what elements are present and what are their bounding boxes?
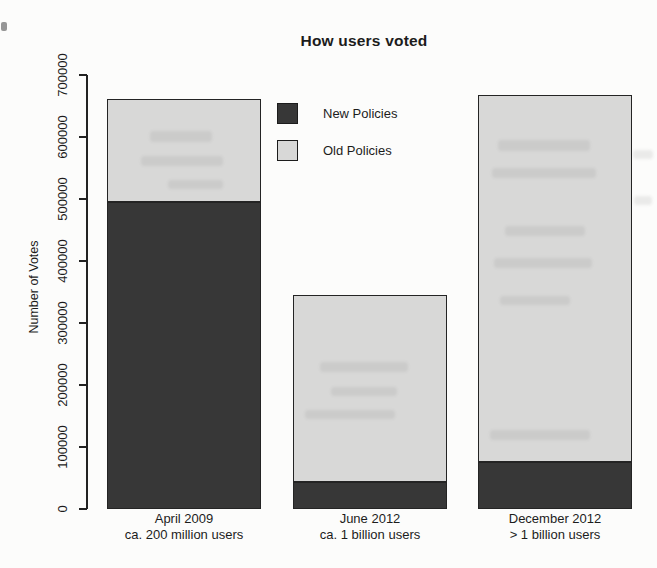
y-tick-label: 400000 <box>55 239 70 282</box>
bar-segment-old-policies-december-2012 <box>478 95 632 462</box>
y-tick-label: 300000 <box>55 301 70 344</box>
legend-item-old-policies: Old Policies <box>277 140 397 161</box>
x-axis-label-line2: ca. 200 million users <box>125 527 244 543</box>
bar-segment-old-policies-june-2012 <box>293 295 447 482</box>
legend-swatch-new-policies <box>277 103 298 124</box>
y-tick <box>79 136 87 138</box>
x-axis-label-line2: ca. 1 billion users <box>320 527 420 543</box>
y-tick-label: 100000 <box>55 425 70 468</box>
scan-bleed-artifact <box>633 150 653 159</box>
legend-label-old-policies: Old Policies <box>323 143 392 158</box>
x-axis-label-december-2012: December 2012> 1 billion users <box>509 511 602 542</box>
x-axis-label-line2: > 1 billion users <box>509 527 602 543</box>
y-tick <box>79 198 87 200</box>
y-tick <box>79 508 87 510</box>
y-tick <box>79 74 87 76</box>
y-axis-title: Number of Votes <box>27 240 41 333</box>
y-tick-label: 0 <box>55 505 70 512</box>
x-axis-label-june-2012: June 2012ca. 1 billion users <box>320 511 420 542</box>
stacked-bar-chart-figure: How users voted Number of Votes 01000002… <box>0 0 657 568</box>
y-tick-label: 700000 <box>55 53 70 96</box>
legend-label-new-policies: New Policies <box>323 106 397 121</box>
bar-segment-new-policies-april-2009 <box>107 202 261 509</box>
bar-segment-new-policies-december-2012 <box>478 462 632 509</box>
y-tick <box>79 446 87 448</box>
y-tick-label: 200000 <box>55 363 70 406</box>
y-tick-label: 500000 <box>55 177 70 220</box>
x-axis-label-april-2009: April 2009ca. 200 million users <box>125 511 244 542</box>
y-tick-label: 600000 <box>55 115 70 158</box>
legend: New Policies Old Policies <box>277 103 397 177</box>
legend-swatch-old-policies <box>277 140 298 161</box>
y-axis-line <box>86 75 88 509</box>
y-tick <box>79 260 87 262</box>
scan-bleed-artifact <box>634 196 652 205</box>
x-axis-label-line1: June 2012 <box>320 511 420 527</box>
legend-item-new-policies: New Policies <box>277 103 397 124</box>
chart-title: How users voted <box>88 32 640 50</box>
bar-segment-new-policies-june-2012 <box>293 482 447 509</box>
x-axis-label-line1: December 2012 <box>509 511 602 527</box>
y-tick <box>79 322 87 324</box>
y-tick <box>79 384 87 386</box>
x-axis-label-line1: April 2009 <box>125 511 244 527</box>
bar-segment-old-policies-april-2009 <box>107 99 261 202</box>
scan-speck-artifact <box>1 22 7 31</box>
